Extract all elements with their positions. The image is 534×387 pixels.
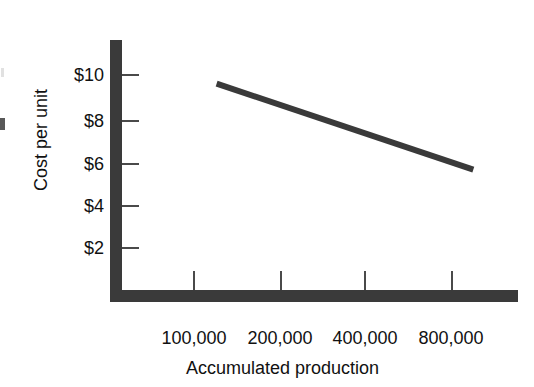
experience-curve-line (217, 84, 474, 170)
experience-curve-chart: $10 $8 $6 $4 $2 Cost per unit 100,000 20… (0, 0, 534, 387)
plot-area (0, 0, 534, 387)
